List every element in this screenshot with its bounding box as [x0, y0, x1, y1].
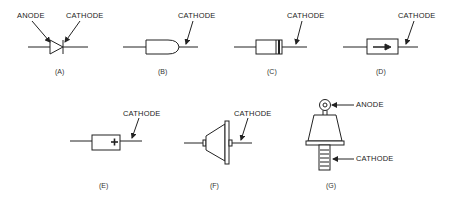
fig-f-cathode-label: CATHODE [234, 110, 272, 118]
fig-a-caption: (A) [55, 68, 64, 75]
fig-e-caption: (E) [99, 182, 108, 189]
figure-b-diode-package [123, 21, 198, 54]
anode-pointer-arrow [32, 21, 50, 42]
fig-g-anode-label: ANODE [356, 101, 384, 109]
figure-g-diode-package [306, 100, 354, 171]
figure-a-diode-symbol [28, 21, 88, 54]
figure-f-diode-package [184, 118, 252, 164]
fig-g-cathode-label: CATHODE [356, 155, 394, 163]
cathode-pointer-arrow [241, 118, 248, 140]
fig-c-cathode-label: CATHODE [287, 12, 325, 20]
fig-c-caption: (C) [267, 68, 277, 75]
cathode-pointer-arrow [65, 21, 80, 42]
figure-e-diode-package [70, 118, 142, 150]
fig-f-caption: (F) [210, 182, 219, 189]
fig-d-cathode-label: CATHODE [398, 12, 436, 20]
figure-c-diode-package [234, 21, 307, 54]
fig-e-cathode-label: CATHODE [123, 110, 161, 118]
fig-g-caption: (G) [326, 182, 336, 189]
figure-d-diode-package [343, 21, 418, 54]
cathode-pointer-arrow [186, 21, 193, 44]
fig-b-cathode-label: CATHODE [178, 12, 216, 20]
cathode-pointer-arrow [132, 118, 139, 138]
fig-b-caption: (B) [158, 68, 167, 75]
diode-diagram-canvas [0, 0, 451, 198]
fig-d-caption: (D) [376, 68, 386, 75]
cathode-pointer-arrow [296, 21, 302, 44]
fig-a-cathode-label: CATHODE [66, 12, 104, 20]
cathode-pointer-arrow [406, 21, 414, 44]
fig-a-anode-label: ANODE [17, 12, 45, 20]
